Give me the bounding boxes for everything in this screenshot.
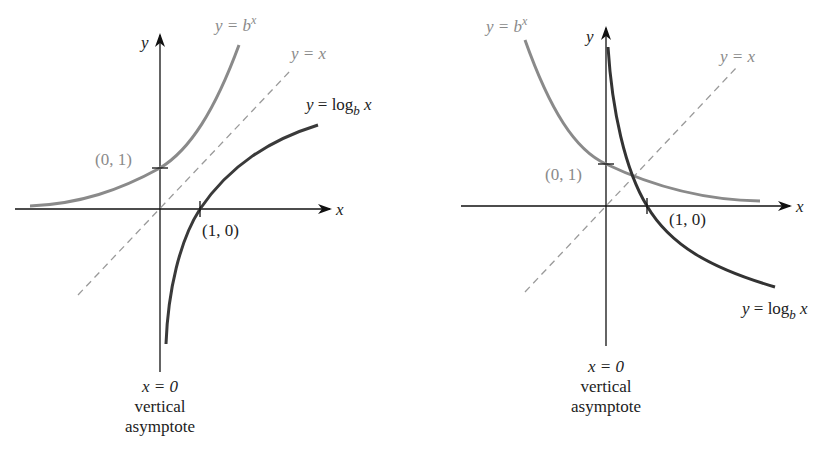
right-asymptote-line2: asymptote xyxy=(571,397,641,416)
left-asymptote-equation: x = 0 xyxy=(141,377,179,396)
left-exponential-label: y = bx xyxy=(213,13,257,35)
left-log-curve xyxy=(166,125,318,344)
left-identity-label: y = x xyxy=(289,44,327,63)
right-exponential-label: y = bx xyxy=(484,14,528,36)
right-log-label: yy = log = logb x xyxy=(740,299,808,322)
left-asymptote-line1: vertical xyxy=(135,397,186,416)
exp-log-diagram: y x y = bx y = x yy = log = logb x (0, 1… xyxy=(0,0,832,450)
left-exponential-curve xyxy=(30,45,239,206)
left-log-label: yy = log = logb x xyxy=(304,95,372,118)
right-point-0-1: (0, 1) xyxy=(545,165,582,184)
right-identity-label: y = x xyxy=(718,47,756,66)
left-point-1-0: (1, 0) xyxy=(202,221,239,240)
left-asymptote-line2: asymptote xyxy=(125,417,195,436)
left-graph: y x y = bx y = x yy = log = logb x (0, 1… xyxy=(15,13,372,436)
right-point-1-0: (1, 0) xyxy=(669,210,706,229)
left-identity-line xyxy=(78,70,291,295)
right-asymptote-equation: x = 0 xyxy=(587,357,625,376)
left-y-axis-label: y xyxy=(139,33,149,52)
right-asymptote-line1: vertical xyxy=(581,377,632,396)
left-point-0-1: (0, 1) xyxy=(95,150,132,169)
right-y-axis-label: y xyxy=(584,27,594,46)
right-x-axis-label: x xyxy=(795,197,804,216)
right-graph: y x y = bx y = x yy = log = logb x (0, 1… xyxy=(461,14,808,416)
right-log-curve xyxy=(608,47,775,287)
left-x-axis-label: x xyxy=(335,200,344,219)
